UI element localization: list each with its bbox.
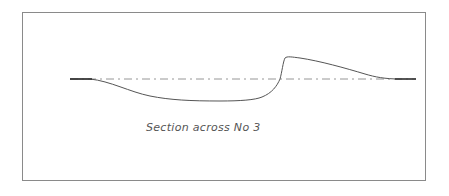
section-caption: Section across No 3 <box>146 121 261 134</box>
section-drawing <box>0 0 449 196</box>
